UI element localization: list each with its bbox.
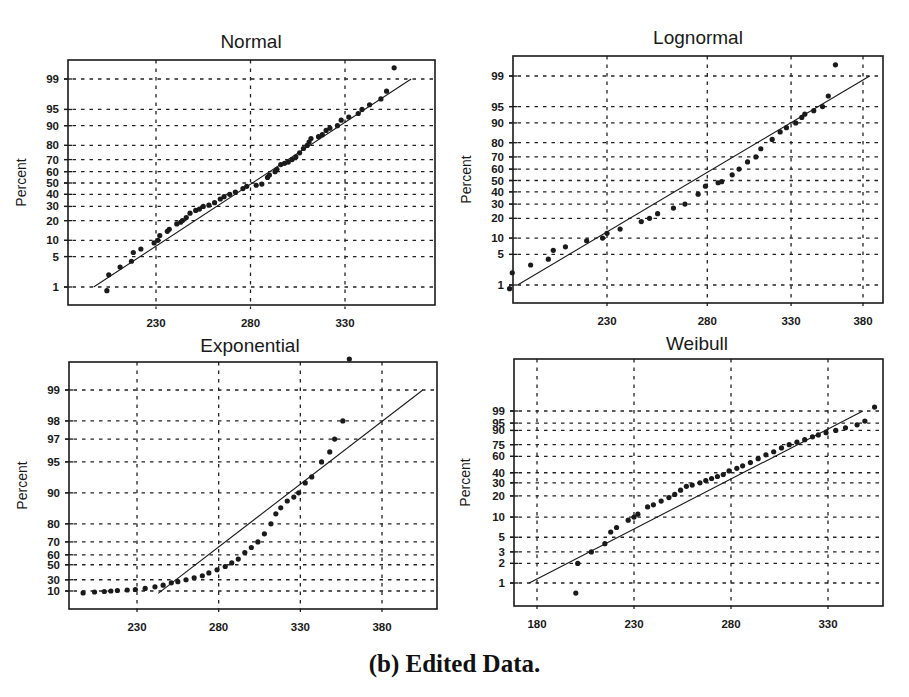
y-tick-label: 20 xyxy=(46,215,59,227)
y-tick-label: 75 xyxy=(492,439,505,451)
figure: Normal151020304050607080909599230280330P… xyxy=(0,0,909,697)
y-tick-label: 20 xyxy=(492,490,505,502)
y-tick-label: 99 xyxy=(46,73,59,85)
y-tick-label: 90 xyxy=(47,487,60,499)
y-tick-label: 40 xyxy=(492,467,505,479)
y-tick-label: 1 xyxy=(499,577,506,589)
y-tick-label: 60 xyxy=(46,166,59,178)
y-tick-label: 95 xyxy=(491,101,504,113)
y-tick-label: 2 xyxy=(499,557,505,569)
fit-line xyxy=(158,390,423,593)
weibull-plot: Weibull123510203040607590959918023028033… xyxy=(457,333,883,630)
y-tick-label: 99 xyxy=(491,70,504,82)
y-tick-label: 5 xyxy=(499,531,506,543)
chart-title: Exponential xyxy=(200,335,299,356)
y-tick-label: 50 xyxy=(46,177,59,189)
y-tick-label: 60 xyxy=(47,549,60,561)
y-tick-label: 95 xyxy=(47,456,60,468)
y-tick-label: 1 xyxy=(498,279,505,291)
y-tick-label: 5 xyxy=(53,251,60,263)
y-tick-label: 95 xyxy=(492,417,505,429)
y-tick-label: 10 xyxy=(46,234,59,246)
lognormal-plot: Lognormal1510203040506070809095992302803… xyxy=(458,27,883,327)
chart-title: Normal xyxy=(220,31,281,52)
y-tick-label: 95 xyxy=(46,103,59,115)
y-axis-label: Percent xyxy=(457,458,473,506)
y-tick-label: 60 xyxy=(491,163,504,175)
exponential-plot: Exponential10305060708090959798992302803… xyxy=(14,335,437,633)
x-tick-label: 230 xyxy=(624,618,643,630)
y-tick-label: 80 xyxy=(47,518,60,530)
figure-caption: (b) Edited Data. xyxy=(0,650,909,678)
y-axis-label: Percent xyxy=(458,155,474,203)
x-tick-label: 280 xyxy=(721,618,740,630)
normal-plot: Normal151020304050607080909599230280330P… xyxy=(13,31,435,329)
y-tick-label: 40 xyxy=(491,186,504,198)
x-tick-label: 180 xyxy=(527,618,546,630)
y-tick-label: 30 xyxy=(46,200,59,212)
y-tick-label: 40 xyxy=(46,188,59,200)
y-tick-label: 3 xyxy=(499,546,505,558)
y-tick-label: 10 xyxy=(492,511,505,523)
plot-frame xyxy=(513,56,883,303)
y-tick-label: 99 xyxy=(492,405,505,417)
y-tick-label: 10 xyxy=(47,585,60,597)
x-tick-label: 230 xyxy=(146,317,165,329)
y-axis-label: Percent xyxy=(14,461,30,509)
y-tick-label: 20 xyxy=(491,212,504,224)
y-axis-label: Percent xyxy=(13,158,29,206)
x-tick-label: 330 xyxy=(781,315,800,327)
y-tick-label: 70 xyxy=(47,536,60,548)
y-tick-label: 50 xyxy=(491,175,504,187)
x-tick-label: 230 xyxy=(597,315,616,327)
x-tick-label: 280 xyxy=(241,317,260,329)
y-tick-label: 5 xyxy=(498,248,505,260)
y-tick-label: 70 xyxy=(46,154,59,166)
y-tick-label: 80 xyxy=(491,137,504,149)
y-tick-label: 70 xyxy=(491,151,504,163)
y-tick-label: 30 xyxy=(491,198,504,210)
y-tick-label: 10 xyxy=(491,232,504,244)
x-tick-label: 280 xyxy=(698,315,717,327)
gridlines xyxy=(510,359,883,610)
x-tick-label: 280 xyxy=(209,621,228,633)
gridlines xyxy=(509,56,883,307)
gridlines xyxy=(65,362,437,613)
data-points xyxy=(573,404,877,595)
y-tick-label: 99 xyxy=(47,384,60,396)
y-tick-label: 80 xyxy=(46,139,59,151)
x-tick-label: 330 xyxy=(291,621,310,633)
y-tick-label: 60 xyxy=(492,450,505,462)
x-tick-label: 380 xyxy=(853,315,872,327)
x-tick-label: 380 xyxy=(372,621,391,633)
y-tick-label: 1 xyxy=(53,281,60,293)
y-tick-label: 30 xyxy=(47,574,60,586)
y-tick-label: 90 xyxy=(491,117,504,129)
x-tick-label: 330 xyxy=(335,317,354,329)
data-points xyxy=(81,356,352,595)
y-tick-label: 97 xyxy=(47,433,60,445)
y-tick-label: 90 xyxy=(46,120,59,132)
data-points xyxy=(507,62,838,291)
y-tick-label: 98 xyxy=(47,415,60,427)
x-tick-label: 330 xyxy=(818,618,837,630)
chart-title: Weibull xyxy=(666,333,728,354)
x-tick-label: 230 xyxy=(127,621,146,633)
chart-title: Lognormal xyxy=(653,27,743,48)
